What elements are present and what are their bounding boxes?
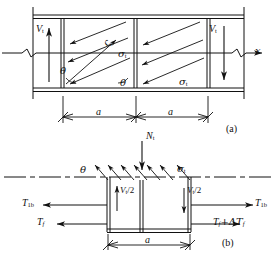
normal-force-label: Nt [146, 131, 154, 142]
x-axis-label: x [255, 46, 261, 56]
flange-force-label-left-top: T1b [22, 198, 34, 209]
flange-force-label-right-bottom: Tf+ΔTf [213, 217, 244, 228]
caption-b: (b) [222, 238, 234, 248]
dimension-label-b: a [145, 235, 150, 245]
angle-label-2: θ [120, 78, 126, 88]
flange-force-label-left-bottom: Tf [37, 217, 44, 228]
flange-force-label-right-top: T1b [255, 198, 267, 209]
dimension-label-a2: a [168, 107, 173, 117]
stress-label-b: σt [177, 164, 186, 175]
stress-label-1: σt [118, 49, 127, 60]
neutral-axis-a [2, 49, 262, 57]
caption-a: (a) [226, 124, 237, 134]
shear-half-label-left: Vt/2 [120, 186, 134, 196]
shear-half-label-right: Vt/2 [187, 186, 201, 196]
dimension-label-a1: a [96, 107, 101, 117]
shear-label-right: Vt [209, 24, 217, 35]
angle-label-1: θ [60, 66, 66, 76]
shear-label-left: Vt [36, 24, 44, 35]
dimension-line-a [58, 96, 213, 123]
stress-label-2: σt [179, 77, 188, 88]
angle-label-b: θ [80, 165, 86, 175]
figure-container: Vt Vt x θ θ ς σt σt a a (a) Nt θ σt Vt/2… [0, 0, 277, 259]
